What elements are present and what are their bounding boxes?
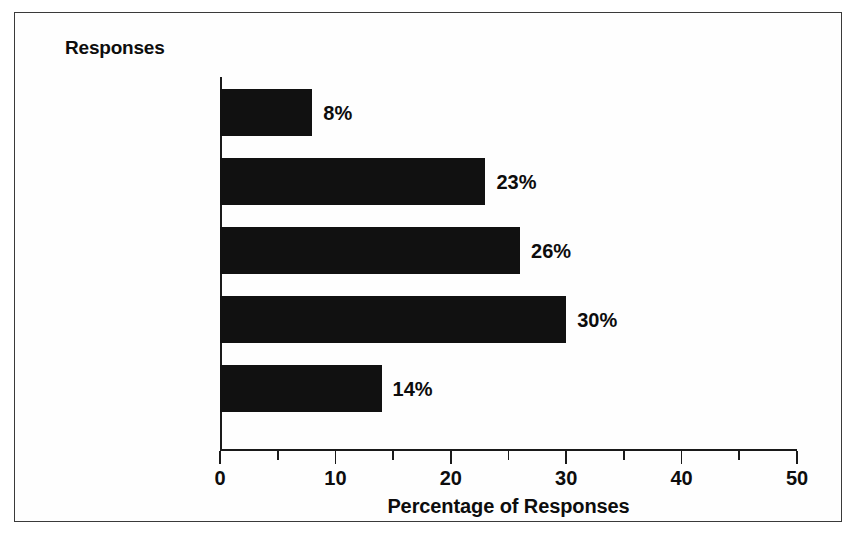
x-axis-tick: [796, 451, 798, 464]
x-axis-tick: [219, 451, 221, 464]
bar-row: 8%: [220, 89, 797, 136]
x-axis-minor-tick: [392, 451, 394, 460]
x-axis-tick-label: 0: [214, 467, 225, 490]
bar: [220, 365, 382, 412]
x-axis-minor-tick: [277, 451, 279, 460]
responses-header: Responses: [65, 37, 165, 59]
x-axis-tick: [335, 451, 337, 464]
bar: [220, 227, 520, 274]
x-axis-tick: [450, 451, 452, 464]
x-axis-tick-label: 30: [555, 467, 577, 490]
bar: [220, 296, 566, 343]
bar-value-label: 8%: [323, 101, 352, 124]
x-axis-tick: [681, 451, 683, 464]
bar-value-label: 30%: [577, 308, 617, 331]
x-axis-minor-tick: [508, 451, 510, 460]
bar-value-label: 14%: [393, 377, 433, 400]
figure-frame: Responses 8%23%26%30%14% Marked success …: [14, 12, 842, 522]
bar-value-label: 26%: [531, 239, 571, 262]
bar: [220, 89, 312, 136]
x-axis-minor-tick: [738, 451, 740, 460]
x-axis-title: Percentage of Responses: [220, 495, 797, 518]
x-axis-tick: [565, 451, 567, 464]
bar-row: 30%: [220, 296, 797, 343]
bar-value-label: 23%: [496, 170, 536, 193]
x-axis-tick-label: 10: [324, 467, 346, 490]
bar-row: 26%: [220, 227, 797, 274]
bar-row: 23%: [220, 158, 797, 205]
x-axis-tick-label: 20: [440, 467, 462, 490]
bar: [220, 158, 485, 205]
x-axis-tick-label: 40: [670, 467, 692, 490]
x-axis-minor-tick: [623, 451, 625, 460]
x-axis-tick-label: 50: [786, 467, 808, 490]
bar-chart-plot-area: 8%23%26%30%14% Marked success throughout…: [220, 77, 797, 449]
bar-row: 14%: [220, 365, 797, 412]
